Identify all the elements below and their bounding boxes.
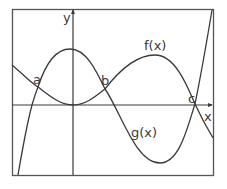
y-axis-label: y — [63, 10, 71, 25]
curve-f — [18, 10, 212, 175]
plot-frame — [13, 10, 214, 176]
intersection-a-label: a — [33, 72, 41, 87]
x-axis-arrow-icon — [208, 103, 213, 107]
x-axis-label: x — [204, 109, 212, 124]
curve-f-label: f(x) — [144, 38, 166, 53]
curve-g-label: g(x) — [131, 125, 157, 140]
intersection-b-label: b — [101, 73, 109, 88]
intersection-c-label: c — [188, 91, 195, 106]
function-graph: y x f(x) g(x) a b c — [0, 0, 227, 189]
